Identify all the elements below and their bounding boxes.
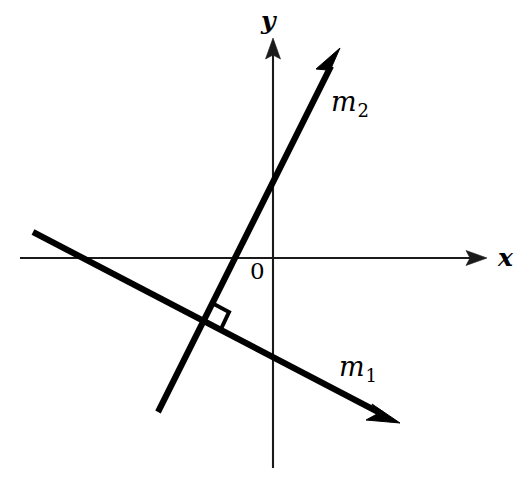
- coordinate-plane-svg: [0, 0, 521, 490]
- origin-label: 0: [250, 260, 265, 283]
- line-m1-label: m1: [339, 353, 377, 385]
- line-m1: [33, 232, 382, 414]
- line-m2-label-base: m: [331, 86, 357, 117]
- line-m2-label: m2: [331, 88, 369, 120]
- line-m2-label-subscript: 2: [357, 100, 369, 121]
- x-axis-label: x: [498, 245, 513, 270]
- y-axis-label: y: [261, 8, 276, 33]
- line-m1-label-base: m: [339, 351, 365, 382]
- line-m2: [158, 66, 331, 412]
- line-m1-label-subscript: 1: [365, 365, 377, 386]
- figure-canvas: y x 0 m2 m1: [0, 0, 521, 490]
